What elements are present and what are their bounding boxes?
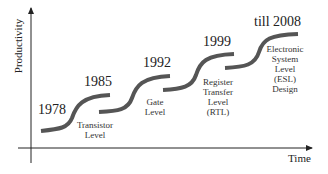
label-esl-design: Electronic System Level (ESL) Design	[262, 44, 308, 94]
year-1999: 1999	[203, 34, 231, 50]
label-gate-level: Gate Level	[140, 97, 170, 117]
label-rtl: Register Transfer Level (RTL)	[198, 77, 238, 117]
y-axis-label: Productivity	[12, 14, 24, 78]
x-axis-label: Time	[288, 152, 311, 164]
year-1992: 1992	[143, 55, 171, 71]
year-1978: 1978	[38, 102, 66, 118]
year-1985: 1985	[84, 74, 112, 90]
label-transistor-level: Transistor Level	[74, 120, 116, 140]
year-till-2008: till 2008	[254, 14, 301, 30]
